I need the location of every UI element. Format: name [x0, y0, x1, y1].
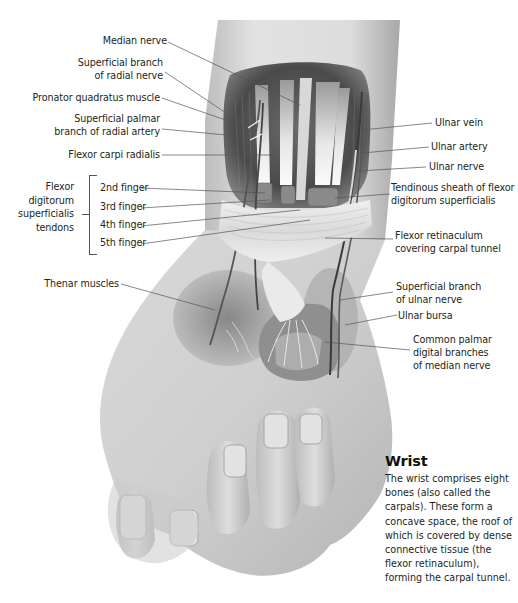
label-superficial-branch-radial-nerve: Superficial branch of radial nerve	[78, 56, 163, 82]
label-5th-finger: 5th finger	[100, 236, 146, 249]
label-thenar-muscles: Thenar muscles	[44, 277, 119, 290]
label-pronator-quadratus: Pronator quadratus muscle	[33, 91, 160, 104]
label-ulnar-nerve: Ulnar nerve	[429, 160, 484, 173]
label-4th-finger: 4th finger	[100, 218, 146, 231]
label-median-nerve: Median nerve	[103, 34, 167, 47]
tendon-group-bracket	[89, 175, 97, 255]
label-superficial-palmar-branch-radial-artery: Superficial palmar branch of radial arte…	[54, 112, 160, 138]
tendon-group-bracket-tick	[82, 214, 89, 215]
label-flexor-carpi-radialis: Flexor carpi radialis	[68, 148, 160, 161]
info-title: Wrist	[385, 453, 515, 469]
info-body: The wrist comprises eight bones (also ca…	[385, 472, 515, 586]
label-3rd-finger: 3rd finger	[100, 200, 146, 213]
label-ulnar-artery: Ulnar artery	[431, 140, 488, 153]
label-2nd-finger: 2nd finger	[100, 181, 148, 194]
label-superficial-branch-ulnar-nerve: Superficial branch of ulnar nerve	[396, 280, 481, 306]
info-box: Wrist The wrist comprises eight bones (a…	[385, 453, 515, 586]
label-flexor-retinaculum: Flexor retinaculum covering carpal tunne…	[395, 229, 501, 255]
label-common-palmar-digital-branches: Common palmar digital branches of median…	[413, 333, 492, 373]
label-ulnar-vein: Ulnar vein	[435, 116, 483, 129]
label-tendinous-sheath: Tendinous sheath of flexor digitorum sup…	[391, 181, 514, 207]
label-flexor-digitorum-superficialis-tendons: Flexor digitorum superficialis tendons	[18, 180, 74, 234]
wrist-anatomy-figure: Median nerve Superficial branch of radia…	[0, 0, 518, 603]
label-ulnar-bursa: Ulnar bursa	[398, 309, 453, 322]
